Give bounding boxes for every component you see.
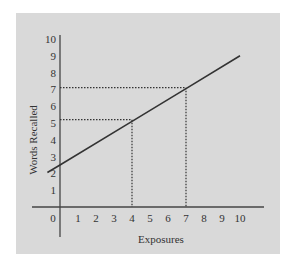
dotted-guides bbox=[60, 88, 186, 207]
x-tick-label: 10 bbox=[235, 212, 247, 224]
x-tick-label: 4 bbox=[129, 212, 135, 224]
x-tick-label: 5 bbox=[147, 212, 153, 224]
y-axis-label: Words Recalled bbox=[27, 105, 39, 175]
y-tick-labels: 12345678910 bbox=[45, 33, 57, 196]
x-tick-label: 8 bbox=[201, 212, 207, 224]
y-tick-label: 8 bbox=[51, 67, 57, 79]
line-chart: 12345678910 012345678910 Exposures Words… bbox=[0, 0, 298, 268]
y-tick-label: 10 bbox=[45, 33, 57, 45]
y-tick-label: 1 bbox=[51, 184, 57, 196]
y-tick-label: 3 bbox=[51, 151, 57, 163]
x-tick-label: 7 bbox=[183, 212, 189, 224]
y-tick-label: 4 bbox=[51, 134, 57, 146]
x-tick-label: 9 bbox=[219, 212, 225, 224]
y-tick-label: 5 bbox=[51, 117, 57, 129]
x-tick-label: 2 bbox=[93, 212, 99, 224]
x-tick-labels: 012345678910 bbox=[50, 212, 246, 224]
x-tick-label: 3 bbox=[111, 212, 117, 224]
data-line bbox=[47, 56, 240, 173]
x-tick-label: 6 bbox=[165, 212, 171, 224]
x-tick-label: 1 bbox=[75, 212, 81, 224]
x-axis-label: Exposures bbox=[138, 233, 184, 245]
x-tick-label: 0 bbox=[50, 212, 56, 224]
y-tick-label: 9 bbox=[51, 50, 57, 62]
y-tick-label: 6 bbox=[51, 100, 57, 112]
y-tick-label: 7 bbox=[51, 83, 57, 95]
